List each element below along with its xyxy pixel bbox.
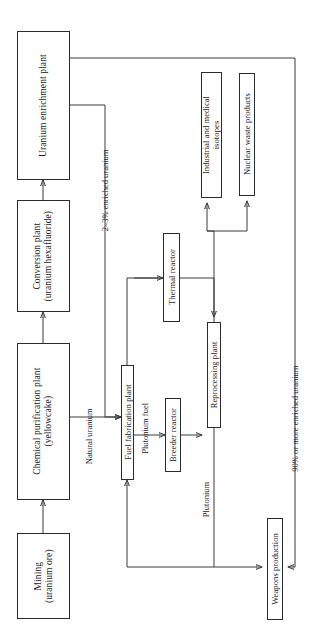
node-conversion-plant[interactable]: Conversion plant (uranium hexafluoride): [17, 200, 70, 312]
node-label-chemical-purification-plant: Chemical purification plant (yellowcake): [32, 368, 54, 475]
node-label-mining: Mining (uranium ore): [32, 549, 54, 603]
edge-label-natural-uranium: Natural uranium: [59, 430, 119, 444]
node-label-mining-line1: Mining: [32, 549, 43, 603]
flow-diagram-canvas: Uranium enrichment plant Conversion plan…: [0, 0, 316, 638]
node-label-thermal-reactor: Thermal reactor: [167, 249, 177, 305]
edge-label-enriched-uranium-2-3-text: 2–3% enriched uranium: [101, 143, 110, 231]
node-uranium-enrichment-plant[interactable]: Uranium enrichment plant: [17, 31, 70, 180]
node-label-chemical-purification-plant-line2: (yellowcake): [44, 368, 55, 475]
node-mining[interactable]: Mining (uranium ore): [17, 533, 70, 619]
edge-thermal-to-reprocessing: [180, 278, 214, 317]
node-nuclear-waste-products[interactable]: Nuclear waste products: [239, 73, 255, 196]
node-reprocessing-plant[interactable]: Reprocessing plant: [207, 322, 221, 428]
node-industrial-and-medical-isotopes[interactable]: Industrial and medical isotopes: [201, 72, 222, 198]
edge-enrichment-to-weapons: [70, 58, 295, 567]
node-chemical-purification-plant[interactable]: Chemical purification plant (yellowcake): [17, 343, 70, 500]
node-label-conversion-plant-line1: Conversion plant: [32, 211, 43, 302]
edge-reprocessing-to-waste: [207, 201, 247, 231]
node-label-isotopes-line2: isotopes: [212, 96, 222, 174]
node-label-nuclear-waste-products: Nuclear waste products: [242, 94, 252, 176]
node-label-conversion-plant: Conversion plant (uranium hexafluoride): [32, 211, 54, 302]
edge-label-enriched-uranium-90: 90% or more enriched uranium: [230, 402, 316, 416]
edge-label-enriched-uranium-90-text: 90% or more enriched uranium: [291, 341, 300, 472]
edge-label-plutonium-fuel: Plutonium fuel: [117, 421, 174, 435]
node-label-isotopes-line1: Industrial and medical: [201, 96, 211, 174]
node-weapons-production[interactable]: Weapons production: [267, 518, 283, 620]
node-label-conversion-plant-line2: (uranium hexafluoride): [44, 211, 55, 302]
edge-label-plutonium-text: Plutonium: [202, 475, 211, 517]
node-label-mining-line2: (uranium ore): [44, 549, 55, 603]
node-breeder-reactor[interactable]: Breeder reactor: [165, 398, 181, 472]
edge-label-natural-uranium-text: Natural uranium: [85, 404, 94, 464]
edge-reprocessing-branch: [207, 231, 214, 322]
edge-fuelfab-top-stub: [127, 278, 163, 365]
edge-label-plutonium: Plutonium: [185, 492, 227, 506]
node-label-chemical-purification-plant-line1: Chemical purification plant: [32, 368, 43, 475]
node-thermal-reactor[interactable]: Thermal reactor: [163, 233, 180, 322]
edge-label-enriched-uranium-2-3: 2–3% enriched uranium: [61, 183, 149, 197]
edge-label-plutonium-fuel-text: Plutonium fuel: [141, 397, 150, 454]
node-label-uranium-enrichment-plant: Uranium enrichment plant: [38, 54, 49, 157]
node-label-industrial-and-medical-isotopes: Industrial and medical isotopes: [201, 96, 221, 174]
node-label-weapons-production: Weapons production: [270, 533, 280, 605]
edge-enrichment-to-fuel-fab: [70, 105, 121, 417]
node-label-reprocessing-plant: Reprocessing plant: [209, 342, 219, 409]
